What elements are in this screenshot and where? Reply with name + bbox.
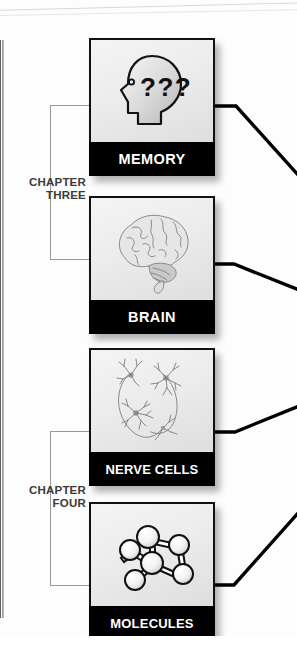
- question-marks-text: ???: [140, 72, 192, 102]
- page-edge-dark: [0, 40, 1, 618]
- chapter-four-line1: CHAPTER: [8, 484, 86, 497]
- brain-icon: [91, 198, 213, 300]
- diagram-canvas: CHAPTER THREE CHAPTER FOUR: [0, 0, 297, 670]
- connector-brain: [214, 264, 297, 290]
- card-brain-label: BRAIN: [89, 300, 215, 334]
- chapter-label-three: CHAPTER THREE: [8, 176, 86, 201]
- chapter-three-line2: THREE: [8, 189, 86, 202]
- card-nerve-cells-art: [89, 348, 215, 452]
- chapter-label-four: CHAPTER FOUR: [8, 484, 86, 509]
- connector-memory: [214, 106, 297, 176]
- card-brain-art: [89, 196, 215, 300]
- connector-nerve-cells: [214, 406, 297, 432]
- card-nerve-cells-label: NERVE CELLS: [89, 452, 215, 486]
- card-memory-art: ???: [89, 38, 215, 142]
- connector-lines-right: [214, 0, 297, 670]
- card-brain[interactable]: BRAIN: [89, 196, 215, 334]
- card-molecules-art: [89, 502, 215, 606]
- card-molecules[interactable]: MOLECULES: [89, 502, 215, 640]
- chapter-three-line1: CHAPTER: [8, 176, 86, 189]
- neurons-icon: [91, 350, 213, 452]
- bracket-chapter-four: [50, 431, 92, 587]
- page-bottom-margin: [0, 636, 297, 670]
- card-molecules-label: MOLECULES: [89, 606, 215, 640]
- chapter-four-line2: FOUR: [8, 497, 86, 510]
- molecule-ball-and-stick-icon: [91, 504, 213, 606]
- card-memory[interactable]: ??? MEMORY: [89, 38, 215, 176]
- card-memory-label: MEMORY: [89, 142, 215, 176]
- head-with-question-marks-icon: ???: [91, 40, 213, 142]
- page-edge-shadow: [2, 40, 4, 618]
- card-nerve-cells[interactable]: NERVE CELLS: [89, 348, 215, 486]
- connector-molecules: [214, 512, 297, 585]
